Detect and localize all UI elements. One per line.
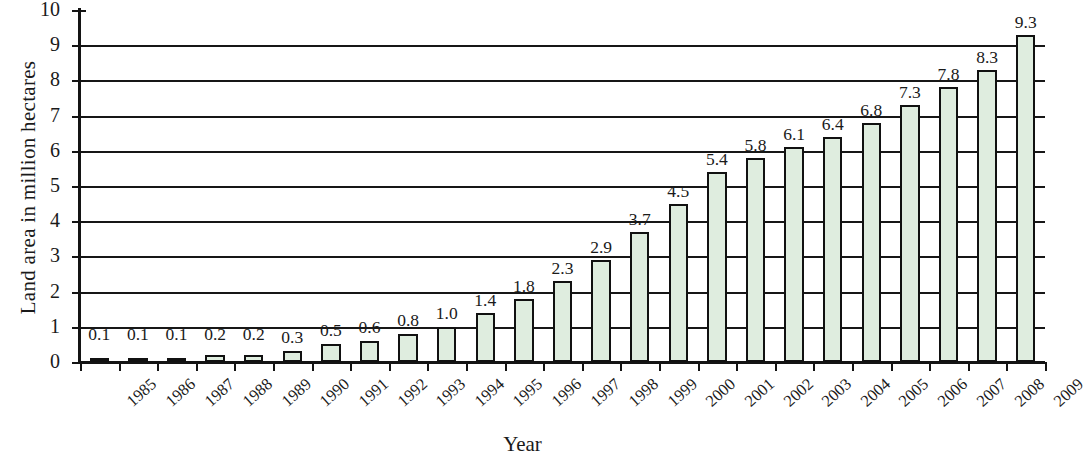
bar xyxy=(1016,35,1036,362)
x-tick-label: 1992 xyxy=(394,375,430,410)
y-tick xyxy=(72,362,86,364)
x-tick xyxy=(582,362,584,371)
bar-value-label: 9.3 xyxy=(999,13,1053,31)
y-tick-label: 1 xyxy=(14,316,60,336)
x-tick xyxy=(929,362,931,371)
bar-value-label: 6.8 xyxy=(844,101,898,119)
x-tick xyxy=(350,362,352,371)
x-tick-label: 1995 xyxy=(510,375,546,410)
bar-value-label: 7.8 xyxy=(922,65,976,83)
bar xyxy=(553,281,573,362)
y-tick-label: 0 xyxy=(14,351,60,371)
x-tick xyxy=(891,362,893,371)
x-tick-label: 2006 xyxy=(934,375,970,410)
x-tick xyxy=(234,362,236,371)
bar xyxy=(90,358,110,362)
bar xyxy=(823,137,843,362)
bar xyxy=(939,87,959,362)
y-tick xyxy=(72,45,86,47)
x-tick-label: 1999 xyxy=(664,375,700,410)
bar xyxy=(283,351,303,362)
x-tick xyxy=(466,362,468,371)
x-tick-label: 2000 xyxy=(703,375,739,410)
bar-value-label: 1.8 xyxy=(497,277,551,295)
x-tick xyxy=(1006,362,1008,371)
x-tick-label: 2004 xyxy=(857,375,893,410)
x-tick-label: 1994 xyxy=(471,375,507,410)
x-tick-label: 1997 xyxy=(587,375,623,410)
x-tick-label: 1988 xyxy=(240,375,276,410)
bar xyxy=(591,260,611,362)
bar xyxy=(707,172,727,362)
y-tick xyxy=(72,186,86,188)
y-tick-label: 10 xyxy=(14,0,60,19)
x-tick-label: 2003 xyxy=(819,375,855,410)
x-tick xyxy=(389,362,391,371)
x-tick xyxy=(543,362,545,371)
bar xyxy=(128,358,148,362)
bar-value-label: 2.9 xyxy=(574,238,628,256)
bar-value-label: 3.7 xyxy=(613,210,667,228)
x-tick xyxy=(312,362,314,371)
x-tick-label: 2008 xyxy=(1012,375,1048,410)
x-tick xyxy=(273,362,275,371)
x-tick-label: 2007 xyxy=(973,375,1009,410)
bar xyxy=(514,299,534,362)
y-tick xyxy=(72,10,86,12)
bar xyxy=(205,355,225,362)
bar xyxy=(669,204,689,362)
y-tick-label: 5 xyxy=(14,175,60,195)
x-tick-label: 1986 xyxy=(162,375,198,410)
y-tick-label: 6 xyxy=(14,140,60,160)
y-tick xyxy=(72,256,86,258)
x-tick-label: 1998 xyxy=(626,375,662,410)
x-tick-label: 1993 xyxy=(433,375,469,410)
gridline xyxy=(80,45,1045,47)
x-tick xyxy=(119,362,121,371)
bar xyxy=(244,355,264,362)
bar xyxy=(360,341,380,362)
bar-value-label: 7.3 xyxy=(883,83,937,101)
x-tick xyxy=(736,362,738,371)
bar-value-label: 2.3 xyxy=(536,259,590,277)
x-tick xyxy=(698,362,700,371)
x-tick xyxy=(968,362,970,371)
bar xyxy=(862,123,882,362)
x-tick-label: 1996 xyxy=(548,375,584,410)
x-tick xyxy=(427,362,429,371)
bar-value-label: 4.5 xyxy=(651,182,705,200)
x-tick xyxy=(196,362,198,371)
bar xyxy=(784,147,804,362)
y-tick-label: 9 xyxy=(14,34,60,54)
y-tick xyxy=(72,292,86,294)
x-axis-title: Year xyxy=(0,432,1045,457)
y-tick xyxy=(72,116,86,118)
y-tick-label: 2 xyxy=(14,281,60,301)
bar xyxy=(167,358,187,362)
x-tick-label: 1991 xyxy=(355,375,391,410)
x-tick xyxy=(1045,362,1047,371)
bar xyxy=(476,313,496,362)
y-tick-label: 4 xyxy=(14,210,60,230)
x-tick xyxy=(852,362,854,371)
x-tick-label: 2005 xyxy=(896,375,932,410)
x-tick xyxy=(620,362,622,371)
bar xyxy=(977,70,997,362)
y-tick xyxy=(72,80,86,82)
bar xyxy=(900,105,920,362)
x-tick xyxy=(157,362,159,371)
x-tick-label: 1987 xyxy=(201,375,237,410)
bar xyxy=(398,334,418,362)
x-tick xyxy=(813,362,815,371)
x-tick-label: 1985 xyxy=(124,375,160,410)
x-tick-label: 2002 xyxy=(780,375,816,410)
bar xyxy=(321,344,341,362)
x-tick-label: 2001 xyxy=(741,375,777,410)
y-tick xyxy=(72,221,86,223)
x-tick-label: 1989 xyxy=(278,375,314,410)
bar-value-label: 8.3 xyxy=(960,48,1014,66)
x-tick-label: 1990 xyxy=(317,375,353,410)
x-tick-label: 2009 xyxy=(1050,375,1086,410)
x-tick xyxy=(659,362,661,371)
